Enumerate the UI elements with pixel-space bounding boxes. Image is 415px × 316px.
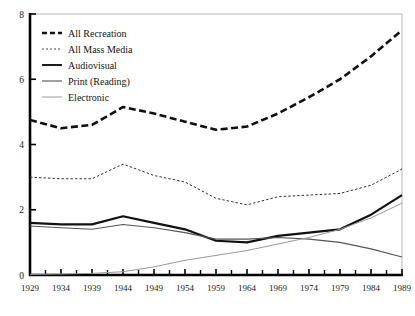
series-line-all-mass-media [30,164,402,205]
x-tick-label: 1974 [300,283,319,293]
x-tick-label: 1959 [207,283,226,293]
y-tick-0: 0 [19,271,36,281]
chart-container: 0 2 4 6 8 192919341939194419491954195919… [0,0,415,316]
x-tick-label: 1984 [362,283,381,293]
x-tick-label: 1944 [114,283,133,293]
legend-item-print-reading[interactable]: Print (Reading) [42,76,130,88]
legend-label: Electronic [68,92,110,103]
legend-item-all-recreation[interactable]: All Recreation [42,28,127,39]
legend-item-electronic[interactable]: Electronic [42,92,110,103]
x-tick-label: 1929 [21,283,40,293]
x-tick-label: 1954 [176,283,195,293]
y-tick-2: 2 [19,205,36,215]
y-axis: 0 2 4 6 8 [19,10,36,281]
x-tick-label: 1979 [331,283,350,293]
y-tick-label: 8 [19,10,24,20]
legend-label: All Mass Media [68,44,133,55]
x-tick-label: 1939 [83,283,102,293]
x-tick-label: 1964 [238,283,257,293]
x-tick-label: 1934 [52,283,71,293]
legend-label: Audiovisual [68,60,117,71]
legend: All Recreation All Mass Media Audiovisua… [42,28,133,103]
legend-label: Print (Reading) [68,76,130,88]
series-line-audiovisual [30,195,402,242]
x-tick-label: 1949 [145,283,164,293]
y-tick-8: 8 [19,10,36,20]
y-tick-4: 4 [19,140,36,150]
legend-item-all-mass-media[interactable]: All Mass Media [42,44,133,55]
legend-label: All Recreation [68,28,127,39]
line-chart: 0 2 4 6 8 192919341939194419491954195919… [0,0,415,316]
x-axis-labels: 1929193419391944194919541959196419691974… [21,283,412,293]
y-tick-label: 2 [19,205,24,215]
x-tick-label: 1989 [393,283,412,293]
x-tick-label: 1969 [269,283,288,293]
legend-item-audiovisual[interactable]: Audiovisual [42,60,117,71]
y-tick-label: 0 [19,271,24,281]
y-tick-label: 4 [19,140,24,150]
y-tick-6: 6 [19,75,36,85]
y-tick-label: 6 [19,75,24,85]
